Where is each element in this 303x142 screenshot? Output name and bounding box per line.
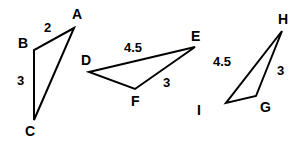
vertex-label-d: D — [81, 52, 91, 68]
vertex-label-h: H — [278, 11, 288, 27]
triangle-def: DEF4.53 — [81, 28, 200, 109]
triangles-diagram: ABC23DEF4.53HGI4.53 — [0, 0, 303, 142]
vertex-label-i: I — [197, 102, 201, 118]
side-length-ef: 3 — [163, 75, 170, 90]
side-length-hi: 4.5 — [213, 54, 231, 69]
vertex-label-b: B — [18, 35, 28, 51]
vertex-label-a: A — [72, 6, 82, 22]
side-length-de: 4.5 — [124, 40, 142, 55]
triangle-outline — [34, 28, 74, 120]
side-length-hg: 3 — [277, 63, 284, 78]
triangle-outline — [226, 31, 282, 103]
side-length-ab: 2 — [44, 20, 51, 35]
triangle-ghi: HGI4.53 — [197, 11, 288, 118]
vertex-label-g: G — [260, 99, 271, 115]
triangle-abc: ABC23 — [17, 6, 82, 139]
diagram-canvas: ABC23DEF4.53HGI4.53 — [0, 0, 303, 142]
side-length-bc: 3 — [17, 73, 24, 88]
vertex-label-c: C — [25, 123, 35, 139]
vertex-label-f: F — [131, 93, 140, 109]
vertex-label-e: E — [191, 28, 200, 44]
